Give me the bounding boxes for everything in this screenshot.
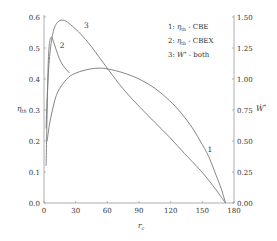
y-left-tick-label: 0.0 bbox=[29, 200, 40, 208]
x-tick-label: 0 bbox=[42, 207, 46, 215]
legend: 1: ηth - CBE2: ηth - CBEX3: Ẇ* - both bbox=[168, 23, 213, 59]
curve-label: 3 bbox=[84, 21, 89, 30]
x-tick-label: 30 bbox=[71, 207, 80, 215]
x-tick-label: 120 bbox=[164, 207, 177, 215]
x-tick-label: 60 bbox=[103, 207, 112, 215]
legend-entry: 3: Ẇ* - both bbox=[168, 50, 210, 59]
x-tick-label: 180 bbox=[227, 207, 240, 215]
x-tick-label: 90 bbox=[135, 207, 144, 215]
y-left-tick-label: 0.2 bbox=[29, 138, 40, 146]
y-left-tick-label: 0.4 bbox=[29, 76, 41, 84]
y-left-tick-label: 0.5 bbox=[29, 45, 40, 53]
legend-entry: 1: ηth - CBE bbox=[168, 23, 208, 32]
legend-entry: 2: ηth - CBEX bbox=[168, 37, 213, 46]
y-right-tick-label: 0.00 bbox=[237, 200, 253, 208]
y-right-tick-label: 0.25 bbox=[237, 169, 253, 177]
y-right-tick-label: 1.00 bbox=[237, 76, 253, 84]
y-right-tick-label: 1.25 bbox=[237, 45, 253, 53]
chart: 03060901201501800.00.10.20.30.40.50.60.0… bbox=[0, 0, 277, 241]
y-left-tick-label: 0.6 bbox=[29, 14, 41, 22]
y-axis-left-label: ηth bbox=[17, 104, 27, 114]
curves bbox=[46, 20, 225, 203]
x-tick-label: 150 bbox=[196, 207, 209, 215]
x-axis-label: rc bbox=[138, 221, 145, 231]
series-1-line bbox=[47, 68, 225, 203]
y-left-tick-label: 0.1 bbox=[29, 169, 40, 177]
y-left-tick-label: 0.3 bbox=[29, 107, 40, 115]
tick-labels: 03060901201501800.00.10.20.30.40.50.60.0… bbox=[29, 14, 253, 216]
y-right-tick-label: 0.50 bbox=[237, 138, 253, 146]
curve-label: 1 bbox=[208, 145, 213, 154]
y-axis-right-label: Ẇ* bbox=[256, 103, 267, 113]
series-3-line bbox=[46, 20, 225, 203]
y-right-tick-label: 0.75 bbox=[237, 107, 253, 115]
y-right-tick-label: 1.50 bbox=[237, 14, 253, 22]
curve-label: 2 bbox=[60, 41, 65, 50]
